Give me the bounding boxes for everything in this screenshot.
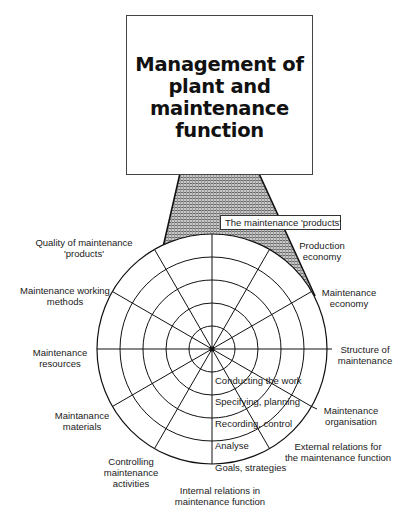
diagram-canvas: Management of plant and maintenance func… [0, 0, 402, 517]
label-line: methods [15, 296, 115, 307]
title-line-3: maintenance [127, 98, 312, 120]
label-line: Maintenance working [15, 285, 115, 296]
label-materials: Maintanance materials [52, 410, 112, 432]
ring-label-goals: Goals, strategies [215, 462, 286, 473]
label-resources: Maintenance resources [30, 347, 90, 369]
ring-label-analyse: Analyse [215, 440, 249, 451]
label-controlling-activities: Controlling maintenance activities [100, 456, 162, 489]
label-maintenance-economy: Maintenance economy [318, 287, 380, 309]
label-line: economy [292, 251, 352, 262]
label-line: Maintenance [30, 347, 90, 358]
label-line: organisation [320, 416, 382, 427]
label-line: materials [52, 421, 112, 432]
ring-label-conducting: Conducting the work [215, 375, 302, 386]
title-line-2: plant and [127, 76, 312, 98]
label-working-methods: Maintenance working methods [15, 285, 115, 307]
label-line: maintenance function [172, 496, 268, 507]
label-line: Maintenance [318, 287, 380, 298]
label-line: 'products' [32, 248, 136, 259]
label-line: maintenance [100, 467, 162, 478]
label-organisation: Maintenance organisation [320, 405, 382, 427]
label-internal-relations: Internal relations in maintenance functi… [172, 485, 268, 507]
title-text: Management of plant and maintenance func… [127, 54, 312, 142]
label-line: Maintenance [320, 405, 382, 416]
label-external-relations: External relations for the maintenance f… [280, 441, 396, 463]
ring-label-recording: Recording, control [215, 418, 292, 429]
label-line: maintenance [335, 355, 395, 366]
label-line: Controlling [100, 456, 162, 467]
ring-label-specifying: Specifying, planning [215, 396, 300, 407]
title-line-4: function [127, 120, 312, 142]
maintenance-products-label: The maintenance 'products' [220, 215, 341, 230]
title-line-1: Management of [127, 54, 312, 76]
wheel-hub [210, 347, 215, 352]
title-box: Management of plant and maintenance func… [126, 15, 313, 175]
label-line: economy [318, 298, 380, 309]
label-line: Production [292, 240, 352, 251]
label-structure: Structure of maintenance [335, 344, 395, 366]
label-production-economy: Production economy [292, 240, 352, 262]
label-quality-of-products: Quality of maintenance 'products' [32, 237, 136, 259]
label-line: Maintanance [52, 410, 112, 421]
label-line: resources [30, 358, 90, 369]
label-line: activities [100, 478, 162, 489]
label-line: the maintenance function [280, 452, 396, 463]
label-line: External relations for [280, 441, 396, 452]
label-line: Quality of maintenance [32, 237, 136, 248]
label-line: Structure of [335, 344, 395, 355]
label-line: Internal relations in [172, 485, 268, 496]
